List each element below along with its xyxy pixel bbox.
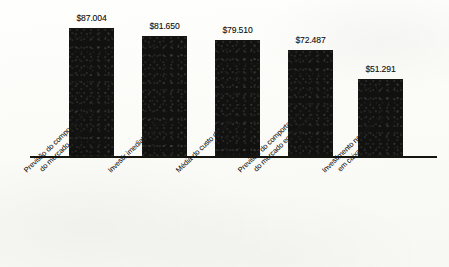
bar-value-label: $79.510 (222, 25, 252, 35)
bar-value-label: $81.650 (149, 21, 179, 31)
bar-value-label: $51.291 (365, 64, 395, 74)
x-axis-baseline (30, 156, 437, 158)
bar-value-label: $72.487 (295, 35, 325, 45)
bar-value-label: $87.004 (76, 13, 106, 23)
bar-media-custo-dolar (215, 40, 260, 156)
bar-chart-plot-area: $87.004 $81.650 $79.510 $72.487 $51.291 … (0, 0, 449, 267)
bar-previsao-equivocada (288, 50, 333, 156)
